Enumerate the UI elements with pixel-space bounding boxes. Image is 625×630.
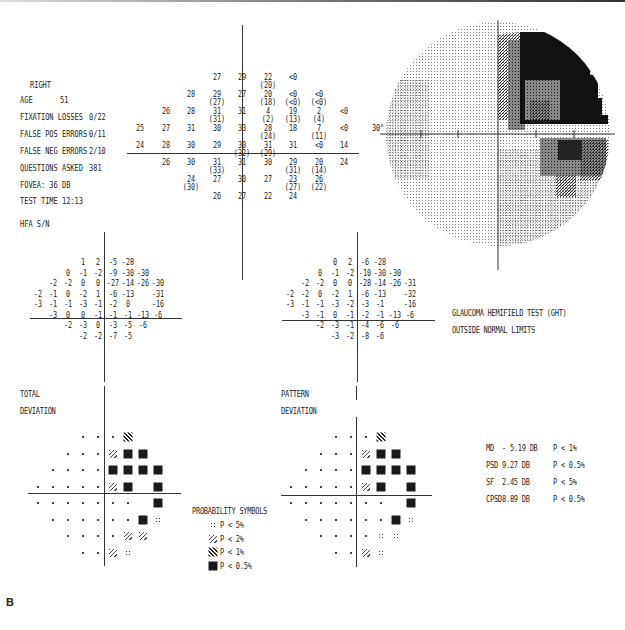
pd-value: -1 — [301, 300, 309, 309]
pd-value: -30 — [374, 269, 386, 278]
pd-label-1: PATTERN — [281, 390, 309, 399]
tdp-symbol-dot-icon — [97, 519, 99, 521]
pd-value: -2 — [301, 290, 309, 299]
td-value: -2 — [94, 332, 102, 341]
pd-value: 0 — [333, 258, 337, 267]
pdp-symbol-p05-icon — [362, 466, 371, 475]
td-value: -13 — [122, 290, 134, 299]
pdp-symbol-dot-icon — [365, 535, 367, 537]
pd-value: -2 — [316, 321, 324, 330]
pdp-symbol-dot-icon — [290, 502, 292, 504]
pd-value: -30 — [389, 269, 401, 278]
threshold-value: 27 — [212, 175, 220, 184]
age-value: 51 — [60, 95, 68, 105]
global-index-name: PSD — [486, 461, 498, 470]
td-value: 0 — [66, 311, 70, 320]
pdp-symbol-dot-icon — [380, 519, 382, 521]
tdp-symbol-p05-icon — [154, 466, 163, 475]
td-value: -13 — [137, 311, 149, 320]
pd-value: -3 — [331, 300, 339, 309]
pdp-symbol-dot-icon — [350, 535, 352, 537]
threshold-value: 27 — [238, 90, 246, 99]
tdp-symbol-dot-icon — [82, 436, 84, 438]
threshold-value: 28 — [161, 141, 169, 150]
eye-label: RIGHT — [30, 80, 51, 90]
pdp-symbol-dot-icon — [350, 436, 352, 438]
tdp-symbol-p05-icon — [124, 482, 133, 491]
pd-label-2: DEVIATION — [281, 407, 317, 416]
threshold-value: 26 — [161, 158, 169, 167]
pdp-horizontal-axis — [281, 495, 432, 496]
tdp-symbol-p05-icon — [109, 466, 118, 475]
tdp-symbol-p1-icon — [124, 433, 133, 442]
pdp-symbol-p5-icon — [378, 550, 384, 556]
global-index-value: 2.45 DB — [502, 478, 530, 487]
legend-item-label: P < 0.5% — [220, 562, 252, 571]
probability-legend-title: PROBABILITY SYMBOLS — [192, 507, 267, 516]
pd-value: -6 — [361, 258, 369, 267]
tdp-symbol-dot-icon — [97, 502, 99, 504]
tdp-symbol-dot-icon — [82, 469, 84, 471]
td-value: -30 — [152, 279, 164, 288]
td-value: -2 — [79, 290, 87, 299]
pd-value: 0 — [318, 290, 322, 299]
tdp-symbol-dot-icon — [67, 453, 69, 455]
pdp-symbol-p2-icon — [362, 483, 370, 491]
hfa-label: HFA S/N — [20, 219, 49, 229]
tdp-symbol-dot-icon — [52, 502, 54, 504]
pdp-symbol-dot-icon — [335, 453, 337, 455]
figure-label: B — [6, 596, 14, 608]
pd-value: -4 — [361, 321, 369, 330]
threshold-value: 27 — [161, 124, 169, 133]
td-value: -5 — [124, 332, 132, 341]
global-index-name: MD — [486, 444, 494, 453]
pdp-symbol-p5-icon — [378, 533, 384, 539]
pd-value: -6 — [376, 332, 384, 341]
threshold-value: 31 — [238, 158, 246, 167]
td-value: 0 — [81, 279, 85, 288]
tdp-symbol-p05-icon — [139, 466, 148, 475]
false-neg-label: FALSE NEG ERRORS — [20, 146, 87, 156]
pd-value: -8 — [361, 332, 369, 341]
threshold-value: 24 — [340, 158, 348, 167]
pd-value: -13 — [389, 311, 401, 320]
pdp-symbol-dot-icon — [335, 502, 337, 504]
pdp-symbol-p05-icon — [392, 449, 401, 458]
tdp-symbol-dot-icon — [52, 486, 54, 488]
threshold-value: 27 — [212, 73, 220, 82]
td-value: -3 — [79, 300, 87, 309]
pd-value: -1 — [331, 269, 339, 278]
td-value: -2 — [34, 290, 42, 299]
td-value: -1 — [94, 300, 102, 309]
pd-value: -10 — [359, 269, 371, 278]
pdp-symbol-p05-icon — [392, 515, 401, 524]
pdp-symbol-dot-icon — [335, 552, 337, 554]
tdp-symbol-dot-icon — [112, 436, 114, 438]
tdp-symbol-dot-icon — [52, 469, 54, 471]
pd-value: -3 — [301, 311, 309, 320]
tdp-symbol-dot-icon — [112, 535, 114, 537]
td-value: -7 — [109, 332, 117, 341]
pd-value: -1 — [316, 300, 324, 309]
pdp-symbol-p05-icon — [377, 466, 386, 475]
td-value: -1 — [94, 311, 102, 320]
pdp-symbol-p2-icon — [362, 450, 370, 458]
pdp-symbol-dot-icon — [350, 552, 352, 554]
tdp-symbol-dot-icon — [67, 486, 69, 488]
tdp-symbol-dot-icon — [82, 552, 84, 554]
pd-value: -2 — [286, 290, 294, 299]
pdp-symbol-p1-icon — [377, 433, 386, 442]
pdp-symbol-dot-icon — [335, 486, 337, 488]
pdp-symbol-p5-icon — [393, 533, 399, 539]
threshold-value: 30 — [212, 124, 220, 133]
threshold-value: <0 — [314, 141, 322, 150]
pd-value: -28 — [359, 279, 371, 288]
td-value: -3 — [79, 321, 87, 330]
td-value: -2 — [109, 300, 117, 309]
ght-title: GLAUCOMA HEMIFIELD TEST (GHT) — [452, 309, 567, 318]
fixation-label: FIXATION LOSSES — [20, 112, 83, 122]
tdp-symbol-dot-icon — [67, 535, 69, 537]
legend-p5-icon — [210, 522, 216, 528]
false-pos-value: 0/11 — [89, 129, 106, 139]
tdp-symbol-dot-icon — [112, 519, 114, 521]
